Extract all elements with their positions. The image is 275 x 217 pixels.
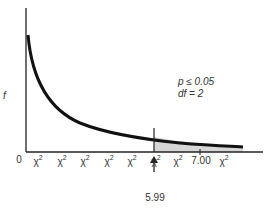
df-annotation: df = 2 xyxy=(178,88,203,100)
p-value-annotation: p ≤ 0.05 xyxy=(178,76,214,88)
tick-label-seven: 7.00 xyxy=(191,155,210,166)
chart-canvas xyxy=(0,0,275,217)
tick-label-chi: χ2 xyxy=(33,155,42,167)
tick-label-zero: 0 xyxy=(16,154,22,165)
y-axis-label: f xyxy=(3,90,6,102)
tick-label-chi: χ2 xyxy=(104,155,113,167)
tick-label-chi: χ2 xyxy=(57,155,66,167)
tick-label-chi: χ2 xyxy=(127,155,136,167)
tick-label-chi: χ2 xyxy=(151,155,160,167)
density-curve xyxy=(28,35,243,147)
tick-label-chi: χ2 xyxy=(80,155,89,167)
critical-value-label: 5.99 xyxy=(145,192,164,203)
tick-label-chi: χ2 xyxy=(173,155,182,167)
tick-label-chi: χ2 xyxy=(219,155,228,167)
